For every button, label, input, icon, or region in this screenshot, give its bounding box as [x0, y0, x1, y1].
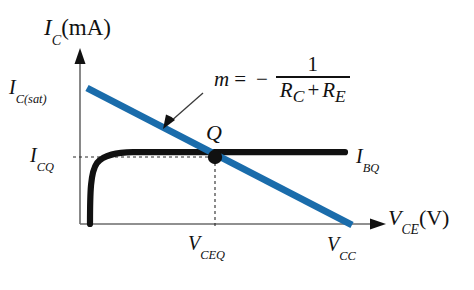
q-point-text: Q — [206, 120, 222, 145]
denominator-second-subscript: E — [335, 86, 346, 106]
slope-equation-numerator: 1 — [298, 54, 329, 76]
y-axis-unit: (mA) — [61, 15, 111, 40]
slope-equation-lhs: m — [214, 69, 229, 90]
ibq-symbol: I — [356, 145, 363, 167]
vcc-label: VCC — [327, 234, 356, 254]
ibq-label: IBQ — [356, 146, 379, 166]
load-line-plot — [0, 0, 474, 290]
slope-equation-denominator: RC+RE — [276, 78, 350, 106]
icq-subscript: CQ — [37, 160, 54, 174]
vceq-subscript: CEQ — [200, 248, 225, 262]
denominator-first-subscript: C — [293, 86, 305, 106]
slope-equation-minus: − — [256, 69, 268, 90]
y-axis-symbol: I — [44, 15, 52, 40]
y-axis-arrow-icon — [75, 48, 86, 64]
slope-equation: m = − 1 RC+RE — [214, 54, 350, 106]
x-axis-unit: (V) — [419, 205, 450, 230]
denominator-plus: + — [307, 78, 319, 102]
slope-equation-equals: = — [234, 69, 246, 90]
denominator-second-symbol: R — [322, 78, 335, 102]
vceq-label: VCEQ — [188, 233, 225, 253]
ic-sat-symbol: I — [9, 76, 16, 98]
x-axis-subscript: CE — [401, 222, 418, 237]
ibq-subscript: BQ — [363, 161, 380, 175]
ic-sat-subscript: C(sat) — [16, 92, 47, 106]
q-point-marker — [208, 150, 222, 164]
icq-label: ICQ — [30, 145, 54, 165]
ic-sat-label: IC(sat) — [9, 77, 47, 97]
x-axis-symbol: V — [388, 205, 401, 230]
vcc-symbol: V — [327, 233, 339, 255]
q-point-label: Q — [206, 122, 222, 144]
denominator-first-symbol: R — [280, 78, 293, 102]
figure-canvas: IC(mA) IC(sat) ICQ IBQ Q VCE(V) VCEQ VCC… — [0, 0, 474, 290]
y-axis-label: IC(mA) — [44, 16, 111, 39]
x-axis-arrow-icon — [370, 219, 386, 230]
x-axis-label: VCE(V) — [388, 207, 449, 229]
vcc-subscript: CC — [339, 249, 356, 263]
slope-equation-fraction: 1 RC+RE — [276, 54, 350, 106]
y-axis-subscript: C — [52, 32, 62, 48]
icq-symbol: I — [30, 144, 37, 166]
slope-annotation-leader — [170, 93, 203, 122]
vceq-symbol: V — [188, 232, 200, 254]
